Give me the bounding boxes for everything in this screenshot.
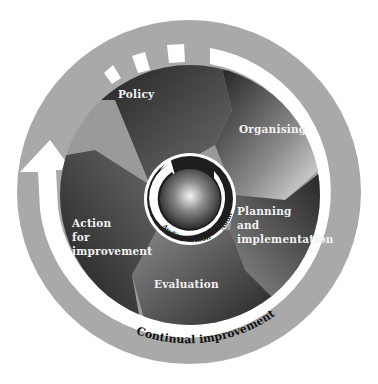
label-and: and [237,219,260,231]
label-action: Action [71,217,111,229]
label-evaluation: Evaluation [154,278,219,290]
label-policy: Policy [118,88,155,100]
arrow-tail-dash-3 [167,44,185,63]
label-improvement: improvement [72,245,152,257]
center-sphere [160,169,220,229]
label-organising: Organising [239,123,307,135]
label-implementation: implementation [237,233,334,245]
continual-improvement-diagram: Audit Audit Audit Policy Organising Plan… [0,0,378,384]
label-planning: Planning [237,205,292,217]
label-for: for [72,231,90,243]
